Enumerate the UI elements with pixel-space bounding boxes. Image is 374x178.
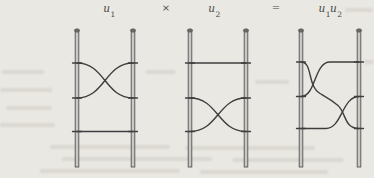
left-post (298, 29, 303, 167)
crossing-strand (77, 63, 133, 98)
tangle-diagram-u1 (73, 29, 138, 167)
scanned-figure: u1 × u2 = u1u2 (0, 0, 374, 178)
tangle-figure (0, 0, 374, 178)
crossing-strand (190, 98, 246, 132)
right-post (356, 29, 361, 167)
top-crossing-strand (301, 62, 359, 97)
tangle-diagram-u2 (186, 29, 251, 167)
bottom-crossing-strand (301, 97, 359, 129)
connecting-strand (301, 62, 359, 129)
tangle-diagram-u1u2 (297, 29, 364, 167)
